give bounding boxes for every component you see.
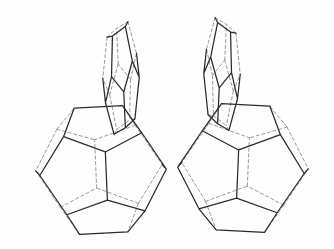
figure-container <box>0 0 334 249</box>
dodecahedra-cluster-diagram <box>0 0 334 249</box>
figure-background <box>0 0 334 249</box>
